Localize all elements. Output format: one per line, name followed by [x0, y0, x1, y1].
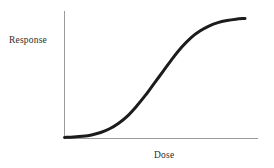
x-axis-label: Dose — [154, 149, 174, 161]
dose-response-curve — [65, 18, 246, 137]
y-axis-label: Response — [9, 34, 47, 46]
chart-plot-area — [0, 0, 274, 168]
dose-response-chart: Response Dose — [0, 0, 274, 168]
